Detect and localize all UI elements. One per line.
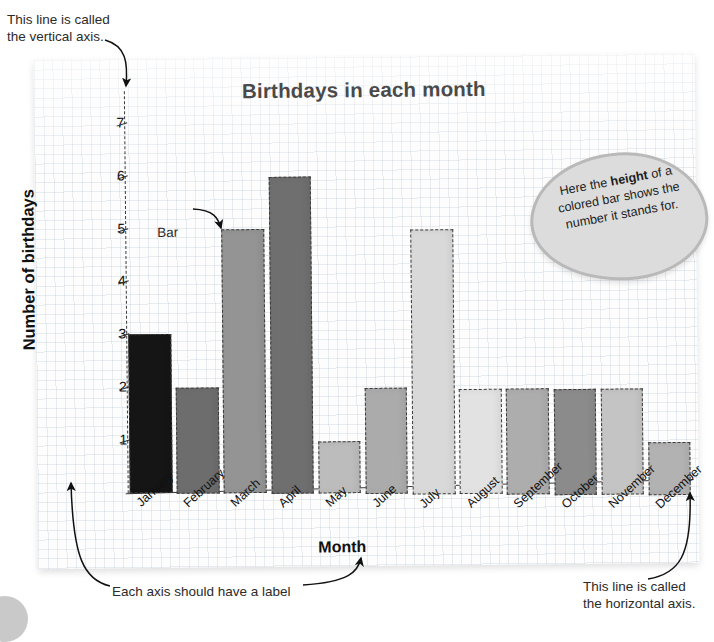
bar <box>268 176 314 494</box>
y-tick-label: 7 <box>98 114 124 130</box>
bar-callout-label: Bar <box>157 225 178 240</box>
bar <box>410 229 455 494</box>
x-axis-title: Month <box>318 538 366 556</box>
axis-label-note: Each axis should have a label <box>112 583 291 600</box>
height-explanation-text: Here the height of a colored bar shows t… <box>543 160 696 237</box>
horizontal-axis-note: This line is called the horizontal axis. <box>583 578 696 612</box>
bar-group <box>124 86 694 493</box>
vertical-axis-note: This line is called the vertical axis. <box>7 11 110 45</box>
y-tick-label: 3 <box>100 326 126 342</box>
y-tick-label: 5 <box>99 220 125 236</box>
bubble-emphasis: height <box>609 168 649 189</box>
page-number-badge <box>0 596 28 642</box>
y-tick-label: 4 <box>100 273 126 289</box>
y-axis-title: Number of birthdays <box>18 105 40 435</box>
x-tick-group: JanuaryFebruaryMarchAprilMayJuneJulyAugu… <box>34 54 695 60</box>
bar <box>222 229 267 494</box>
y-tick-group: 1234567 <box>34 54 695 60</box>
plot-area: Birthdays in each month 1234567 Number o… <box>34 54 700 569</box>
y-tick-label: 1 <box>101 431 127 447</box>
bar <box>365 388 409 494</box>
y-tick-label: 6 <box>99 167 125 183</box>
y-tick-label: 2 <box>101 379 127 395</box>
